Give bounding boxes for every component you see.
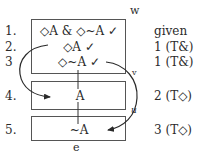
arrow-2-to-4-icon bbox=[20, 45, 50, 97]
arrow-3-to-5-icon bbox=[106, 62, 137, 130]
accessibility-arrows bbox=[0, 0, 204, 157]
